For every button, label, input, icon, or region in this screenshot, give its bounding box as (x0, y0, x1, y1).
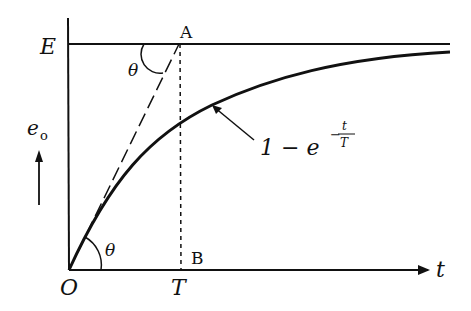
eo-arrowhead-icon (35, 150, 43, 162)
label-A: A (179, 22, 193, 42)
label-t: t (436, 257, 445, 282)
angle-arc-top (141, 44, 163, 73)
diagram-canvas: E A θ θ B O T t e o 1 − e − t T (0, 0, 471, 311)
angle-arc-bottom (85, 237, 101, 270)
label-eo: e (27, 116, 39, 140)
curve-formula-exp-den: T (340, 136, 349, 150)
label-theta-bottom: θ (105, 240, 115, 260)
curve-formula-exp-num: t (342, 119, 347, 133)
label-B: B (191, 248, 204, 268)
label-T: T (171, 275, 188, 300)
label-O: O (60, 275, 78, 300)
response-curve (69, 52, 450, 270)
label-eo-subscript: o (40, 128, 48, 143)
label-E: E (39, 34, 56, 59)
curve-formula: 1 − e (260, 135, 319, 160)
vertical-line-AB (180, 44, 181, 270)
pointer-line (214, 107, 254, 140)
x-axis-arrowhead-icon (418, 265, 430, 275)
y-axis (68, 18, 69, 270)
label-theta-top: θ (128, 60, 138, 80)
